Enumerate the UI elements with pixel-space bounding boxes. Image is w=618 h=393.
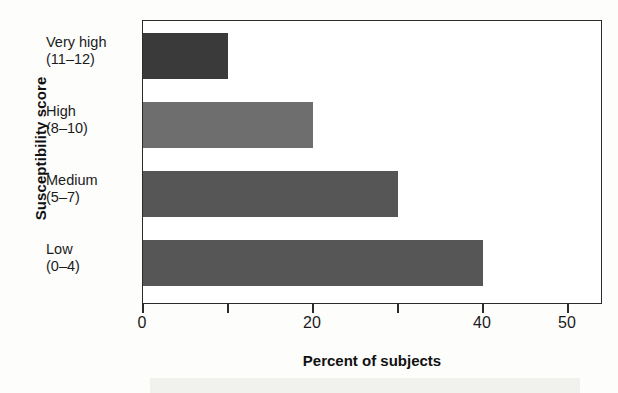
bars-layer bbox=[143, 21, 602, 303]
x-axis-tick-label-0: 0 bbox=[138, 314, 147, 332]
x-axis-tick-20 bbox=[312, 304, 314, 313]
x-axis-ticks bbox=[142, 304, 606, 314]
x-axis-title: Percent of subjects bbox=[142, 352, 602, 369]
x-axis-tick-label-20: 20 bbox=[303, 314, 321, 332]
x-axis-tick-40 bbox=[482, 304, 484, 313]
x-axis-tick-labels: 0204050 bbox=[0, 314, 618, 340]
y-axis-label-very-high-range: (11–12) bbox=[46, 51, 138, 68]
bar-medium bbox=[143, 171, 398, 217]
x-axis-tick-30 bbox=[397, 304, 399, 313]
y-axis-label-medium: Medium (5–7) bbox=[46, 172, 138, 206]
x-axis-tick-0 bbox=[142, 304, 144, 313]
bar-chart-figure: Susceptibility score Very high (11–12) H… bbox=[0, 0, 618, 393]
bar-high bbox=[143, 102, 313, 148]
y-axis-label-low-name: Low bbox=[46, 241, 138, 258]
y-axis-category-labels: Very high (11–12) High (8–10) Medium (5–… bbox=[46, 22, 138, 300]
scan-artifact bbox=[150, 378, 580, 393]
y-axis-label-very-high-name: Very high bbox=[46, 34, 138, 51]
y-axis-label-high-name: High bbox=[46, 103, 138, 120]
y-axis-label-medium-name: Medium bbox=[46, 172, 138, 189]
bar-very-high bbox=[143, 33, 228, 79]
y-axis-label-high-range: (8–10) bbox=[46, 120, 138, 137]
y-axis-label-medium-range: (5–7) bbox=[46, 189, 138, 206]
x-axis-tick-label-50: 50 bbox=[558, 314, 576, 332]
y-axis-label-low-range: (0–4) bbox=[46, 258, 138, 275]
y-axis-label-low: Low (0–4) bbox=[46, 241, 138, 275]
y-axis-label-high: High (8–10) bbox=[46, 103, 138, 137]
bar-low bbox=[143, 240, 483, 286]
x-axis-tick-50 bbox=[567, 304, 569, 313]
x-axis-tick-10 bbox=[227, 304, 229, 313]
y-axis-label-very-high: Very high (11–12) bbox=[46, 34, 138, 68]
x-axis-tick-label-40: 40 bbox=[473, 314, 491, 332]
